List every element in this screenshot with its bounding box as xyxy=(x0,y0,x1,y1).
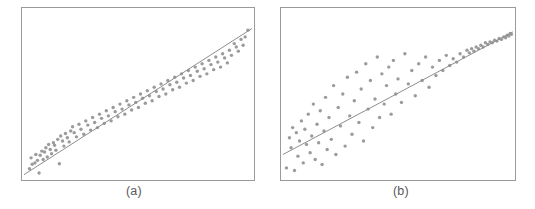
data-point xyxy=(330,138,333,141)
data-point xyxy=(98,112,101,115)
data-point xyxy=(71,125,74,128)
data-point xyxy=(209,63,212,66)
data-point xyxy=(178,86,181,89)
data-point xyxy=(424,55,427,58)
data-point xyxy=(223,56,226,59)
plot-border-b xyxy=(281,8,516,181)
data-point xyxy=(303,128,306,131)
data-point xyxy=(407,82,410,85)
data-point xyxy=(237,49,240,52)
data-point xyxy=(67,140,70,143)
data-point xyxy=(33,161,36,164)
data-point xyxy=(107,114,110,117)
data-point xyxy=(219,65,222,68)
data-point xyxy=(325,148,328,151)
data-point xyxy=(84,119,87,122)
data-point xyxy=(152,86,155,89)
data-point xyxy=(214,55,217,58)
figure-container: (a) (b) xyxy=(0,0,535,209)
data-point xyxy=(146,89,149,92)
data-point xyxy=(137,106,140,109)
data-point xyxy=(226,61,229,64)
data-point xyxy=(452,57,455,60)
data-point xyxy=(376,55,379,58)
data-point xyxy=(130,108,133,111)
data-point xyxy=(72,131,75,134)
data-point xyxy=(132,96,135,99)
data-point xyxy=(44,146,47,149)
data-point xyxy=(62,144,65,147)
data-point xyxy=(296,154,299,157)
data-point xyxy=(392,59,395,62)
plot-border-a xyxy=(22,8,255,181)
data-point xyxy=(228,49,231,52)
data-point xyxy=(47,143,50,146)
data-point xyxy=(123,112,126,115)
scatter-plot-a xyxy=(21,7,255,181)
data-point xyxy=(38,154,41,157)
data-point xyxy=(36,159,39,162)
data-point xyxy=(383,102,386,105)
data-point xyxy=(288,136,291,139)
data-point xyxy=(417,62,420,65)
data-point xyxy=(205,72,208,75)
data-point xyxy=(168,83,171,86)
scatter-plot-b xyxy=(280,7,516,181)
data-point xyxy=(50,152,53,155)
data-point xyxy=(29,156,32,159)
data-point xyxy=(373,97,376,100)
data-point xyxy=(355,70,358,73)
data-point xyxy=(171,88,174,91)
data-point xyxy=(295,131,298,134)
data-point xyxy=(337,106,340,109)
data-point xyxy=(105,109,108,112)
data-point xyxy=(285,166,288,169)
data-point xyxy=(54,149,57,152)
data-point xyxy=(314,158,317,161)
data-point xyxy=(317,141,320,144)
data-point xyxy=(34,153,37,156)
data-point xyxy=(111,106,114,109)
data-point xyxy=(362,139,365,142)
data-point xyxy=(230,54,233,57)
data-point xyxy=(125,99,128,102)
data-point xyxy=(346,76,349,79)
data-point xyxy=(324,96,327,99)
caption-a: (a) xyxy=(0,184,268,198)
data-point xyxy=(202,67,205,70)
data-point xyxy=(56,138,59,141)
data-point xyxy=(289,146,292,149)
data-point xyxy=(400,101,403,104)
data-point xyxy=(79,128,82,131)
data-point xyxy=(93,121,96,124)
data-point xyxy=(196,70,199,73)
data-point xyxy=(144,102,147,105)
data-point xyxy=(302,161,305,164)
caption-b: (b) xyxy=(267,184,535,198)
data-point xyxy=(41,158,44,161)
data-point xyxy=(396,77,399,80)
data-point xyxy=(207,59,210,62)
data-point xyxy=(61,139,64,142)
data-point xyxy=(364,62,367,65)
data-point xyxy=(410,69,413,72)
data-point xyxy=(150,99,153,102)
data-point xyxy=(157,95,160,98)
data-point xyxy=(387,65,390,68)
data-point xyxy=(332,84,335,87)
data-point xyxy=(120,107,123,110)
plot-frame-b xyxy=(280,7,516,181)
data-point xyxy=(66,136,69,139)
panel-b: (b) xyxy=(267,0,535,209)
data-point xyxy=(182,76,185,79)
data-point xyxy=(298,139,301,142)
data-point xyxy=(353,99,356,102)
data-point xyxy=(175,81,178,84)
data-point xyxy=(341,92,344,95)
data-point xyxy=(327,116,330,119)
data-point xyxy=(114,110,117,113)
data-point xyxy=(291,126,294,129)
data-point xyxy=(100,117,103,120)
data-point xyxy=(350,133,353,136)
data-point xyxy=(37,171,40,174)
